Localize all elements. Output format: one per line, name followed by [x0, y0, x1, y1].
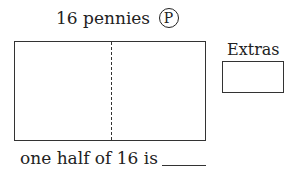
title-text: 16 pennies — [56, 8, 150, 28]
question-text: one half of 16 is — [20, 148, 158, 168]
dashed-divider — [111, 42, 112, 140]
answer-blank[interactable] — [162, 151, 206, 166]
title: 16 pennies P — [56, 8, 179, 28]
penny-circle-icon: P — [159, 8, 179, 28]
question: one half of 16 is — [20, 148, 206, 168]
extras-box — [222, 61, 284, 93]
sharing-box — [14, 41, 206, 141]
extras-label: Extras — [227, 40, 280, 59]
